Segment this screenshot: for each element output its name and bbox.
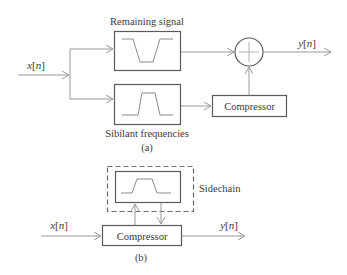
- diagram-canvas: x[n] Remaining signal Sibilant frequenci…: [0, 0, 347, 275]
- band-pass-filter-block: [115, 85, 181, 125]
- diagram-b: Sidechain Compressor x[n] y[n] (b): [41, 167, 245, 265]
- output-label-b: y[n]: [219, 219, 238, 231]
- compressor-label-b: Compressor: [117, 231, 168, 242]
- compressor-block-a: Compressor: [213, 96, 287, 117]
- band-stop-filter-block: [115, 32, 181, 71]
- input-label-b: x[n]: [49, 219, 68, 231]
- output-label-a: y[n]: [297, 37, 316, 49]
- top-filter-label: Remaining signal: [110, 16, 184, 27]
- input-label-a: x[n]: [26, 59, 45, 71]
- compressor-label-a: Compressor: [224, 101, 275, 112]
- diagram-a: x[n] Remaining signal Sibilant frequenci…: [18, 16, 331, 154]
- bottom-filter-label: Sibilant frequencies: [105, 128, 189, 139]
- sidechain-filter-block: [116, 172, 181, 203]
- sidechain-label: Sidechain: [199, 183, 241, 194]
- compressor-block-b: Compressor: [103, 226, 182, 246]
- caption-a: (a): [141, 142, 153, 154]
- summing-junction: [235, 38, 263, 66]
- caption-b: (b): [135, 252, 148, 264]
